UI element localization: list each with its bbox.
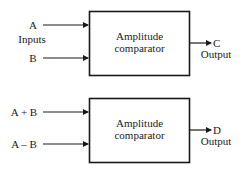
bottom-input-a-label: A + B: [11, 106, 37, 118]
top-block-label-line2: comparator: [114, 42, 164, 54]
bottom-input-b-label: A – B: [11, 138, 37, 150]
top-inputs-label: Inputs: [18, 33, 46, 45]
diagram-canvas: Amplitude comparator A Inputs B C Output…: [0, 0, 248, 174]
bottom-block-label-line1: Amplitude: [116, 117, 163, 129]
bottom-comparator: Amplitude comparator A + B A – B D Outpu…: [11, 99, 231, 163]
comparator-diagram: Amplitude comparator A Inputs B C Output…: [0, 0, 248, 174]
top-input-a-label: A: [29, 19, 37, 31]
top-input-b-label: B: [29, 52, 36, 64]
bottom-output-label: Output: [201, 135, 232, 147]
top-block-label-line1: Amplitude: [116, 30, 163, 42]
top-comparator: Amplitude comparator A Inputs B C Output: [18, 12, 231, 76]
bottom-block-label-line2: comparator: [114, 129, 164, 141]
top-output-label: Output: [201, 48, 232, 60]
